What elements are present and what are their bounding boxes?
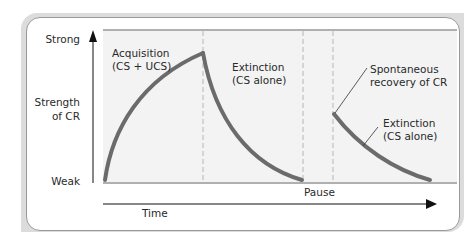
phase-label-line: (CS alone) bbox=[232, 74, 286, 87]
phase-label-extinction-1: Extinction (CS alone) bbox=[232, 61, 286, 86]
phase-label-line: (CS + UCS) bbox=[112, 60, 171, 73]
pause-label: Pause bbox=[304, 186, 335, 199]
phase-label-line: Spontaneous bbox=[370, 63, 447, 76]
phase-label-acquisition: Acquisition (CS + UCS) bbox=[112, 47, 171, 72]
time-axis-arrowhead bbox=[426, 199, 437, 209]
y-label-strong: Strong bbox=[45, 33, 80, 46]
phase-label-line: Extinction bbox=[232, 61, 286, 74]
y-axis-arrowhead bbox=[89, 30, 97, 42]
phase-label-spontaneous-recovery: Spontaneous recovery of CR bbox=[370, 63, 447, 88]
y-axis-title-line2: of CR bbox=[52, 110, 80, 123]
phase-label-line: (CS alone) bbox=[383, 130, 437, 143]
phase-label-line: Extinction bbox=[383, 117, 437, 130]
y-label-weak: Weak bbox=[51, 175, 80, 188]
phase-label-extinction-2: Extinction (CS alone) bbox=[383, 117, 437, 142]
phase-label-line: Acquisition bbox=[112, 47, 171, 60]
x-axis-title: Time bbox=[142, 207, 168, 220]
y-axis-title-line1: Strength bbox=[35, 96, 80, 109]
phase-label-line: recovery of CR bbox=[370, 76, 447, 89]
